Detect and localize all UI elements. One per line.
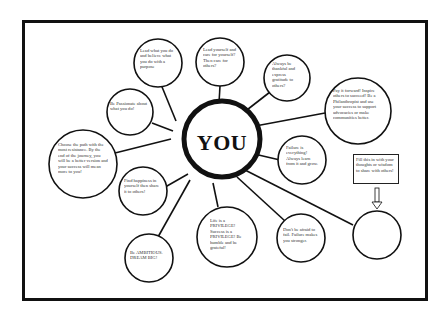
bubble-4-text: Pay it forward! Inspire others to succee… xyxy=(333,88,383,120)
bubble-12 xyxy=(353,211,401,259)
note-box: Fill this in with your thoughts or wisdo… xyxy=(353,154,399,184)
mind-map-canvas: YOU Lead what you do and believe what yo… xyxy=(0,0,447,319)
bubble-7-text: Failure is everything! Always learn from… xyxy=(286,145,320,167)
bubble-9-text: Be AMBITIOUS. DREAM BIG! xyxy=(130,250,170,261)
center-label: YOU xyxy=(180,130,264,156)
bubble-6-text: Choose the path with the most resistance… xyxy=(58,142,108,174)
bubble-3-text: Always be thankful and express gratitude… xyxy=(272,61,302,88)
bubble-5 xyxy=(107,89,153,135)
bubble-8-text: Find happiness in yourself then share it… xyxy=(124,178,162,194)
arrow-down-icon xyxy=(372,188,382,209)
bubble-2-text: Lead yourself and care for yourself? The… xyxy=(203,47,239,69)
bubble-5-text: Be Passionate about what you do! xyxy=(110,101,150,112)
bubble-1-text: Lead what you do and believe what you do… xyxy=(140,48,176,70)
bubble-10-text: Life is a PRIVILEGE! Success is a PRIVIL… xyxy=(210,218,248,250)
bubble-11-text: Don't be afraid to fail. Failure makes y… xyxy=(283,227,321,243)
